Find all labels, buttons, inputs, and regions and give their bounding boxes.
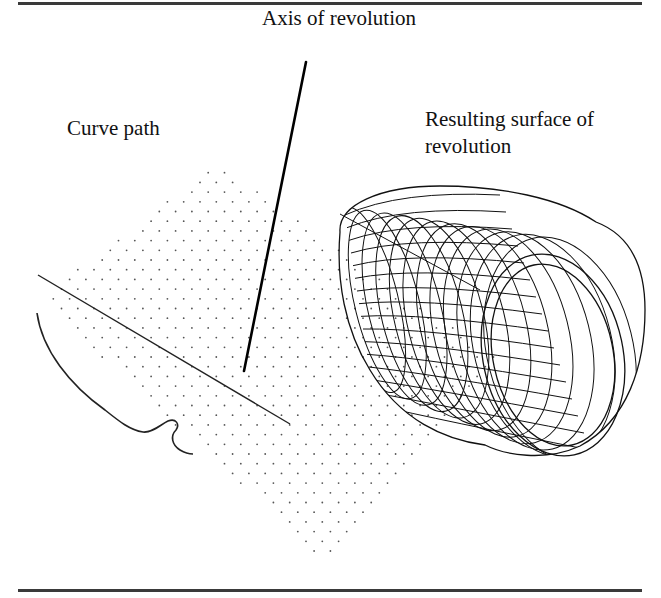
axis-extension-line	[340, 214, 480, 290]
revolution-diagram	[0, 0, 661, 598]
bottom-rule	[18, 589, 642, 592]
surface-wireframe	[339, 186, 645, 469]
curve-path	[37, 313, 193, 454]
surface-parallel-lines	[320, 201, 659, 479]
axis-of-revolution-line	[244, 62, 306, 371]
profile-plane-line	[38, 275, 290, 424]
